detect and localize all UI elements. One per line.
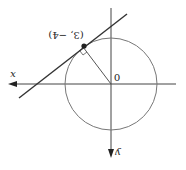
- y-axis-arrow-icon: [108, 149, 114, 158]
- origin-label: 0: [114, 72, 120, 83]
- x-axis-label: x: [10, 70, 16, 81]
- radius-line: [83, 47, 111, 84]
- tangent-point: [81, 43, 86, 48]
- point-label: (3, −4): [48, 30, 83, 41]
- tangent-diagram: (3, −4) 0 x y: [0, 0, 186, 170]
- y-axis-label: y: [115, 148, 122, 159]
